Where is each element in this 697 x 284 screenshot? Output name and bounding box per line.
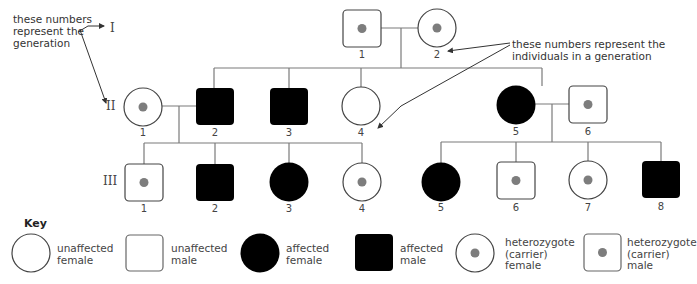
individual-III-1 bbox=[125, 164, 163, 201]
individual-I-2 bbox=[418, 9, 456, 47]
individual-II-1 bbox=[124, 88, 162, 126]
individual-number: 8 bbox=[651, 201, 671, 212]
individual-III-6 bbox=[497, 162, 535, 199]
key-label-carrier-male: heterozygote (carrier) male bbox=[627, 237, 697, 272]
annotation-line: generation bbox=[13, 37, 92, 49]
generation-annotation: these numbers represent the generation bbox=[13, 13, 92, 49]
generation-label-II: II bbox=[106, 99, 115, 113]
key-label-line: unaffected bbox=[171, 243, 227, 255]
key-label-line: heterozygote bbox=[505, 237, 575, 249]
individual-number: 5 bbox=[506, 126, 526, 137]
individual-number: 5 bbox=[431, 202, 451, 213]
individual-III-8 bbox=[642, 161, 680, 198]
individual-II-5 bbox=[497, 86, 536, 125]
key-square-filled-icon bbox=[355, 234, 393, 271]
key-label-line: heterozygote bbox=[627, 237, 697, 249]
key-label-line: male bbox=[171, 255, 227, 267]
individual-III-2 bbox=[196, 164, 234, 201]
individual-number: 4 bbox=[352, 203, 372, 214]
individual-I-1 bbox=[343, 10, 381, 47]
key-square-dot-icon bbox=[584, 234, 621, 271]
key-label-line: affected bbox=[400, 243, 443, 255]
key-label-line: female bbox=[57, 255, 113, 267]
individual-number: 1 bbox=[133, 127, 153, 138]
individual-annotation: these numbers represent the individuals … bbox=[512, 38, 665, 62]
key-label-line: female bbox=[286, 255, 329, 267]
individual-number: 3 bbox=[279, 127, 299, 138]
individual-number: 1 bbox=[352, 49, 372, 60]
individual-number: 7 bbox=[578, 202, 598, 213]
key-circle-filled-icon bbox=[241, 234, 280, 273]
individual-number: 2 bbox=[205, 127, 225, 138]
individual-II-3 bbox=[270, 88, 308, 125]
generation-label-III: III bbox=[103, 174, 117, 188]
key-circle-dot-icon bbox=[456, 234, 494, 272]
key-label-line: male bbox=[627, 260, 697, 272]
key-label-line: male bbox=[400, 255, 443, 267]
key-label-affected-female: affected female bbox=[286, 243, 329, 266]
key-label-unaffected-female: unaffected female bbox=[57, 243, 113, 266]
annotation-line: individuals in a generation bbox=[512, 50, 665, 62]
key-label-carrier-female: heterozygote (carrier) female bbox=[505, 237, 575, 272]
key-square-open-icon bbox=[126, 235, 163, 271]
individual-III-5 bbox=[422, 163, 461, 202]
key-label-unaffected-male: unaffected male bbox=[171, 243, 227, 266]
individual-II-4 bbox=[342, 87, 380, 125]
individual-III-7 bbox=[569, 161, 607, 199]
annotation-line: these numbers bbox=[13, 13, 92, 25]
individual-number: 4 bbox=[351, 127, 371, 138]
individual-number: 1 bbox=[134, 203, 154, 214]
individual-number: 2 bbox=[205, 203, 225, 214]
individual-number: 2 bbox=[427, 49, 447, 60]
key-label-line: unaffected bbox=[57, 243, 113, 255]
key-label-line: female bbox=[505, 260, 575, 272]
annotation-line: represent the bbox=[13, 25, 92, 37]
key-title: Key bbox=[24, 217, 47, 230]
key-label-affected-male: affected male bbox=[400, 243, 443, 266]
individual-II-6 bbox=[569, 86, 607, 123]
individual-II-2 bbox=[196, 88, 234, 125]
key-circle-open-icon bbox=[12, 234, 50, 272]
generation-label-I: I bbox=[110, 21, 115, 35]
individual-III-3 bbox=[270, 163, 309, 202]
individual-number: 3 bbox=[279, 203, 299, 214]
individual-III-4 bbox=[343, 163, 381, 201]
individual-number: 6 bbox=[506, 202, 526, 213]
annotation-line: these numbers represent the bbox=[512, 38, 665, 50]
key-label-line: affected bbox=[286, 243, 329, 255]
individual-number: 6 bbox=[578, 126, 598, 137]
